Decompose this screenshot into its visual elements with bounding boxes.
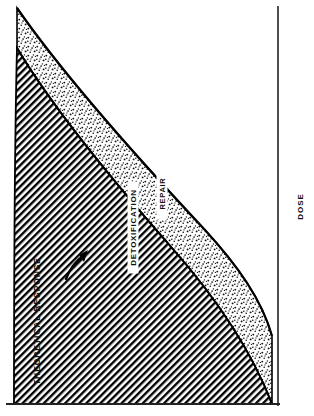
label-repair: REPAIR (157, 168, 168, 220)
label-theoretical-response: THEORETICAL RESPONSE (32, 275, 42, 385)
dose-response-figure: THEORETICAL RESPONSE DETOXIFICATION REPA… (0, 0, 314, 416)
label-detoxification: DETOXIFICATION (128, 182, 139, 274)
axis-label-dose: DOSE (296, 185, 305, 229)
